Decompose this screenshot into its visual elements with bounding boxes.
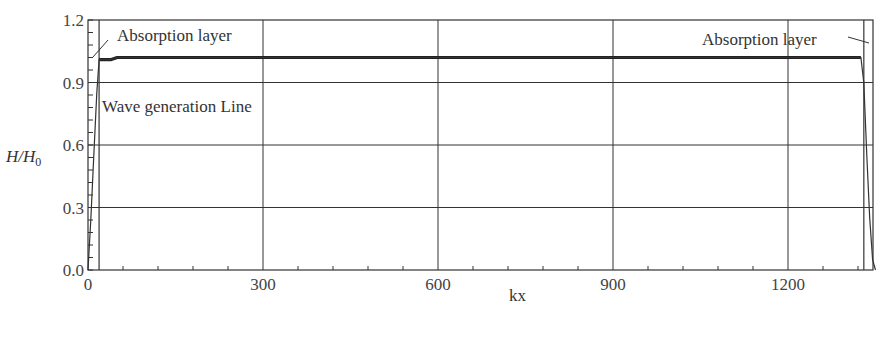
data-series-rise-edge	[88, 58, 876, 271]
y-tick-label: 1.2	[63, 11, 84, 30]
x-tick-label: 300	[250, 275, 276, 294]
line-chart: 0.00.30.60.91.2 03006009001200 H/H0 kx A…	[0, 0, 876, 339]
annotation-wave-generation-line: Wave generation Line	[102, 97, 252, 116]
y-axis-tick-labels: 0.00.30.60.91.2	[63, 11, 84, 280]
y-tick-label: 0.3	[63, 199, 84, 218]
x-tick-label: 600	[425, 275, 451, 294]
annotation-pointer-left	[93, 40, 108, 57]
y-tick-label: 0.9	[63, 74, 84, 93]
annotation-absorption-layer-left: Absorption layer	[117, 26, 232, 45]
x-axis-label: kx	[509, 286, 527, 305]
annotation-pointer-right	[848, 37, 869, 43]
x-tick-label: 1200	[771, 275, 805, 294]
y-tick-label: 0.0	[63, 261, 84, 280]
x-tick-label: 0	[84, 275, 93, 294]
y-axis-label: H/H0	[5, 147, 41, 169]
x-axis-tick-labels: 03006009001200	[84, 275, 805, 294]
y-tick-label: 0.6	[63, 136, 84, 155]
annotation-absorption-layer-right: Absorption layer	[702, 30, 817, 49]
x-tick-label: 900	[600, 275, 626, 294]
